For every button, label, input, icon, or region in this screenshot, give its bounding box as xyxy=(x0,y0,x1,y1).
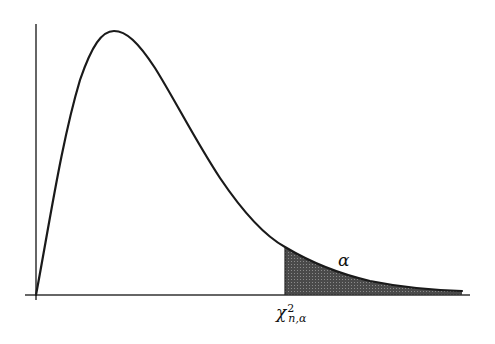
tail-area-label: α xyxy=(338,250,349,270)
density-curve xyxy=(36,31,462,295)
shaded-tail-region xyxy=(285,247,462,295)
chi-square-diagram xyxy=(0,0,495,344)
critical-value-label: χ2n,α xyxy=(276,304,306,321)
chi-symbol: χ xyxy=(276,302,286,322)
critical-value-subscript: n,α xyxy=(288,312,306,325)
